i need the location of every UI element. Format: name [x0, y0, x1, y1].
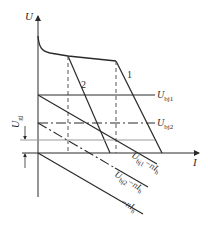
- u-gj-label: Ugj: [10, 115, 24, 128]
- characteristic-line-2: [68, 56, 110, 153]
- u-bj1-label: Ubj1: [157, 89, 174, 103]
- load-line-1-label: Ubj1−nIh: [129, 150, 163, 176]
- load-line-3-label: −nIh: [118, 196, 139, 215]
- x-axis-label: I: [192, 156, 198, 168]
- characteristic-curve: [38, 36, 116, 61]
- volt-ampere-diagram: U I 2 1 Ubj1 Ubj2 Ugj Ubj1−nIh Ubj2−nIh …: [0, 0, 208, 230]
- load-line-2-label: Ubj2−nIh: [112, 169, 146, 195]
- u-bj2-label: Ubj2: [157, 117, 174, 131]
- curve-1-label: 1: [127, 69, 132, 80]
- curve-2-label: 2: [81, 79, 86, 90]
- y-axis-label: U: [25, 10, 34, 22]
- load-line-u-bj2-minus-nih: [38, 123, 115, 168]
- characteristic-line-1: [116, 61, 162, 153]
